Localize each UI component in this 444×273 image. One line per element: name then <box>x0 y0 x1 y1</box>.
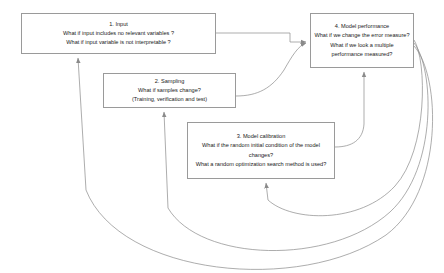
node-input[interactable]: 1. Input What if input includes no relev… <box>21 13 216 54</box>
node-model-performance-line-2: What if we look a multiple performance m… <box>314 41 410 59</box>
node-model-calibration-line-2: What a random optimization search method… <box>196 160 327 169</box>
node-model-performance-title: 4. Model performance <box>335 22 389 31</box>
diagram-canvas: 1. Input What if input includes no relev… <box>0 0 444 273</box>
node-model-calibration[interactable]: 3. Model calibration What if the random … <box>187 122 335 179</box>
node-model-calibration-line-1: What if the random initial condition of … <box>191 141 331 159</box>
node-sampling[interactable]: 2. Sampling What if samples change? (Tra… <box>103 73 236 108</box>
node-model-calibration-title: 3. Model calibration <box>237 132 286 141</box>
node-sampling-line-1: What if samples change? <box>138 86 201 95</box>
edge-calibration-to-performance <box>335 72 364 147</box>
edge-input-to-performance <box>216 33 306 42</box>
node-model-performance-line-1: What if we change the error measure? <box>314 31 409 40</box>
node-input-line-1: What if input includes no relevant varia… <box>63 29 174 38</box>
edge-sampling-to-performance <box>236 43 306 96</box>
node-model-performance[interactable]: 4. Model performance What if we change t… <box>310 13 414 68</box>
node-input-title: 1. Input <box>109 20 128 29</box>
node-sampling-line-2: (Training, verification and test) <box>132 95 207 104</box>
node-input-line-2: What if input variable is not interpreta… <box>66 38 170 47</box>
node-sampling-title: 2. Sampling <box>155 77 185 86</box>
